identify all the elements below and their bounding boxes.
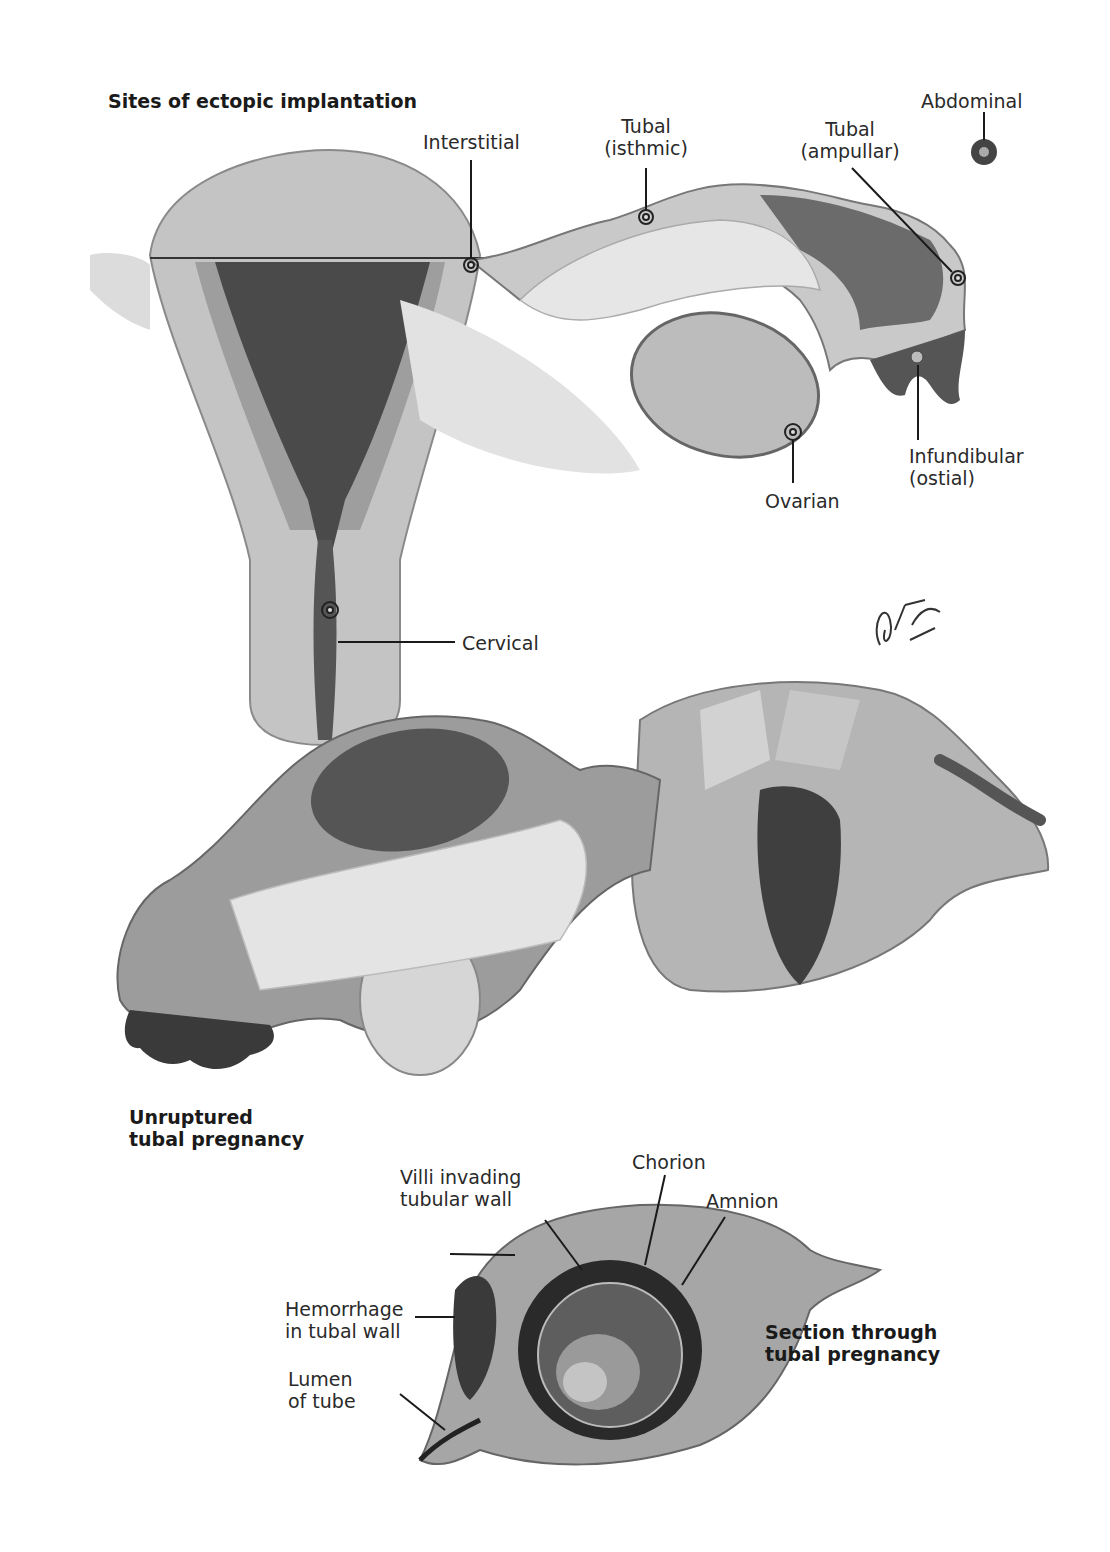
title-unruptured-tubal-pregnancy: Unruptured tubal pregnancy [129,1106,304,1150]
label-cervical: Cervical [462,632,539,654]
title-section-tubal-pregnancy: Section through tubal pregnancy [765,1321,940,1365]
label-ovarian: Ovarian [765,490,840,512]
label-chorion: Chorion [632,1151,706,1173]
title-sites-ectopic: Sites of ectopic implantation [108,90,417,112]
label-villi: Villi invading tubular wall [400,1166,521,1210]
label-interstitial: Interstitial [423,131,520,153]
section-tubal-pregnancy-illustration [400,1175,880,1464]
label-hemorrhage: Hemorrhage in tubal wall [285,1298,404,1342]
artist-signature [877,600,940,645]
unruptured-pregnancy-illustration [117,682,1048,1075]
label-amnion: Amnion [706,1190,779,1212]
label-abdominal: Abdominal [921,90,1023,112]
label-infundibular: Infundibular (ostial) [909,445,1024,489]
label-lumen: Lumen of tube [288,1368,356,1412]
anatomy-illustration [0,0,1110,1552]
uterus-diagram [90,112,997,745]
label-tubal-isthmic: Tubal (isthmic) [601,115,691,159]
label-tubal-ampullar: Tubal (ampullar) [795,118,905,162]
